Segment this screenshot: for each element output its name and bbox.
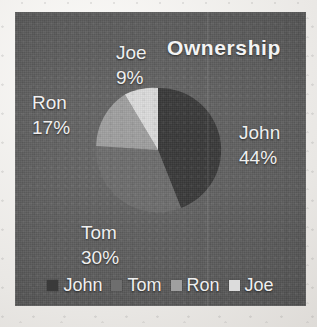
data-label-john-name: John [239,122,280,143]
legend-label-ron: Ron [187,275,220,296]
data-label-ron-name: Ron [32,92,67,113]
legend-swatch-joe [229,280,240,291]
chart-legend: John Tom Ron Joe [15,275,306,296]
data-label-joe-name: Joe [116,42,147,63]
legend-item-john[interactable]: John [47,275,102,296]
data-label-tom-value: 30% [81,245,119,270]
legend-swatch-tom [111,280,122,291]
legend-label-tom: Tom [127,275,161,296]
legend-item-tom[interactable]: Tom [111,275,161,296]
data-label-tom: Tom 30% [81,220,119,270]
legend-label-john: John [63,275,102,296]
pie-chart-plot-area[interactable]: Ownership Joe 9% Ron 17% John 44% Tom 30… [15,12,306,306]
data-label-tom-name: Tom [81,222,117,243]
legend-swatch-john [47,280,58,291]
legend-label-joe: Joe [245,275,274,296]
legend-item-joe[interactable]: Joe [229,275,274,296]
data-label-joe: Joe 9% [116,40,147,90]
screenshot-canvas: Ownership Joe 9% Ron 17% John 44% Tom 30… [0,0,317,327]
legend-item-ron[interactable]: Ron [171,275,220,296]
data-label-ron: Ron 17% [32,90,70,140]
data-label-joe-value: 9% [116,65,147,90]
data-label-john: John 44% [239,120,280,170]
data-label-ron-value: 17% [32,115,70,140]
legend-swatch-ron [171,280,182,291]
chart-title: Ownership [167,36,281,60]
data-label-john-value: 44% [239,145,280,170]
